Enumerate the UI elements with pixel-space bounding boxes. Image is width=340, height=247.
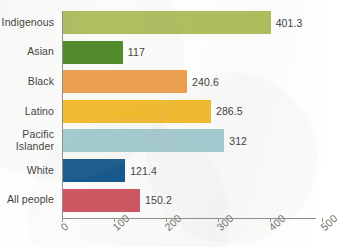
category-label-white: White [0,159,58,182]
category-label-text: Asian [27,46,54,58]
category-label-text: PacificIslander [16,129,54,152]
x-tick-label: 500 [318,212,339,233]
bar-value-label: 312 [229,135,247,147]
category-label-text: Indigenous [2,17,54,29]
category-label-all-people: All people [0,189,58,212]
x-tick [166,218,167,222]
x-tick [114,218,115,222]
x-tick-label: 100 [110,212,131,233]
bar-indigenous [62,11,271,34]
x-tick-label: 0 [58,220,71,233]
bar-latino [62,100,211,123]
cropped-title-sliver [0,0,322,6]
value-axis-baseline [62,218,316,219]
bar-all-people [62,189,140,212]
bar-row: 121.4 [62,159,316,182]
bar-pacific-islander [62,129,224,152]
bar-value-label: 240.6 [192,76,219,88]
x-tick [270,218,271,222]
category-label-text: Black [28,76,54,88]
x-tick-label: 400 [266,212,287,233]
x-tick-label: 200 [162,212,183,233]
bar-row: 240.6 [62,70,316,93]
bar-row: 150.2 [62,189,316,212]
category-label-text: White [27,165,54,177]
bar-value-label: 150.2 [145,194,172,206]
category-label-asian: Asian [0,41,58,64]
bar-value-label: 401.3 [276,17,303,29]
bar-row: 286.5 [62,100,316,123]
category-label-text: Latino [25,106,54,118]
category-label-indigenous: Indigenous [0,11,58,34]
x-tick [62,218,63,222]
value-axis-zero-line [62,11,63,218]
bar-white [62,159,125,182]
bar-asian [62,41,123,64]
category-label-pacific-islander: PacificIslander [0,129,58,152]
bar-row: 117 [62,41,316,64]
x-tick-label: 300 [214,212,235,233]
category-label-black: Black [0,70,58,93]
category-label-latino: Latino [0,100,58,123]
bar-value-label: 286.5 [216,105,243,117]
bar-black [62,70,187,93]
bar-row: 401.3 [62,11,316,34]
category-label-text: All people [7,194,54,206]
x-tick [218,218,219,222]
x-tick [322,218,323,222]
bar-value-label: 121.4 [130,165,157,177]
bar-row: 312 [62,129,316,152]
bar-value-label: 117 [128,46,145,58]
